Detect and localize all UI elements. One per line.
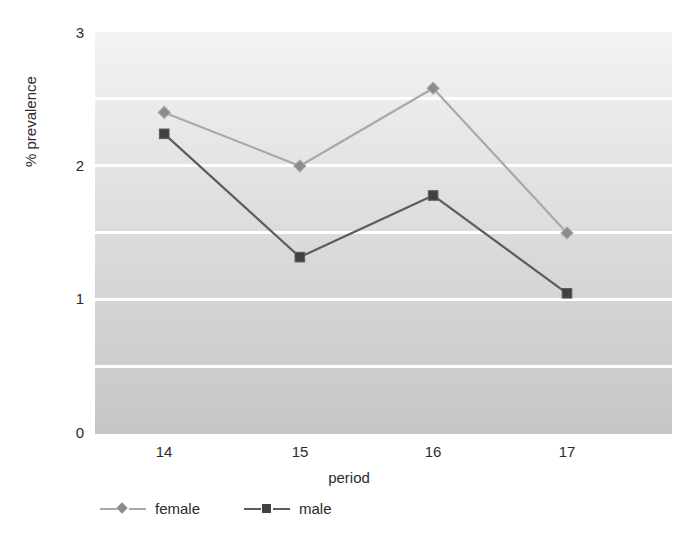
legend-key-male — [244, 503, 290, 515]
legend-label-male: male — [299, 500, 332, 517]
data-point-diamond-marker[interactable] — [294, 160, 306, 172]
legend-item-male[interactable]: male — [244, 500, 332, 517]
data-point-square-marker[interactable] — [428, 191, 438, 201]
square-marker-icon — [262, 504, 271, 513]
y-tick-label-2: 2 — [44, 158, 84, 173]
legend: female male — [100, 500, 332, 517]
series-line-male — [164, 134, 567, 293]
y-tick-label-0: 0 — [44, 425, 84, 440]
plot-area — [95, 32, 672, 434]
x-tick-label-15: 15 — [270, 444, 330, 459]
x-tick-label-17: 17 — [537, 444, 597, 459]
legend-key-female — [100, 503, 146, 515]
x-tick-label-16: 16 — [403, 444, 463, 459]
series-female — [158, 82, 573, 239]
series-male — [159, 129, 571, 298]
data-point-diamond-marker[interactable] — [158, 106, 170, 118]
data-point-square-marker[interactable] — [295, 252, 305, 262]
series-line-female — [164, 88, 567, 233]
y-tick-label-1: 1 — [44, 291, 84, 306]
legend-item-female[interactable]: female — [100, 500, 200, 517]
x-axis-title: period — [0, 469, 698, 486]
line-chart-figure: % prevalence 3 2 1 0 14 15 16 17 period — [0, 0, 698, 546]
data-point-square-marker[interactable] — [159, 129, 169, 139]
data-point-square-marker[interactable] — [562, 289, 572, 299]
y-tick-label-3: 3 — [44, 25, 84, 40]
y-axis-title: % prevalence — [22, 76, 39, 167]
series-overlay — [95, 32, 672, 434]
legend-label-female: female — [155, 500, 200, 517]
x-tick-label-14: 14 — [134, 444, 194, 459]
